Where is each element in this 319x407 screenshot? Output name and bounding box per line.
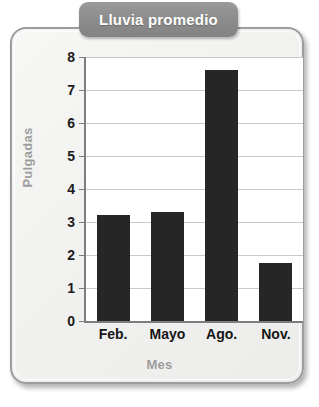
bar-ago — [205, 70, 238, 321]
x-tick-label: Mayo — [149, 326, 185, 342]
bar-feb — [97, 215, 130, 321]
y-tick-label: 7 — [67, 83, 75, 97]
bar-nov — [259, 263, 292, 321]
x-tick-label: Nov. — [261, 326, 290, 342]
y-axis-label: Pulgadas — [20, 113, 35, 203]
y-tick-label: 5 — [67, 149, 75, 163]
y-tick-label: 3 — [67, 215, 75, 229]
bar-series — [86, 57, 303, 321]
x-tick-label: Ago. — [206, 326, 237, 342]
chart-screenshot: Lluvia promedio Pulgadas 012345678 Feb.M… — [0, 0, 319, 407]
plot-area: 012345678 — [84, 57, 303, 323]
x-axis-tick-labels: Feb.MayoAgo.Nov. — [84, 326, 303, 346]
y-tick-label: 2 — [67, 248, 75, 262]
y-tick-label: 1 — [67, 281, 75, 295]
y-tick-label: 4 — [67, 182, 75, 196]
bar-mayo — [151, 212, 184, 321]
chart-title-tab: Lluvia promedio — [79, 2, 238, 37]
x-axis-line — [84, 321, 303, 323]
chart-title: Lluvia promedio — [99, 11, 218, 28]
y-tick-label: 0 — [67, 314, 75, 328]
x-tick-label: Feb. — [99, 326, 128, 342]
y-tick-label: 6 — [67, 116, 75, 130]
x-axis-label: Mes — [0, 357, 319, 372]
y-tick-label: 8 — [67, 50, 75, 64]
